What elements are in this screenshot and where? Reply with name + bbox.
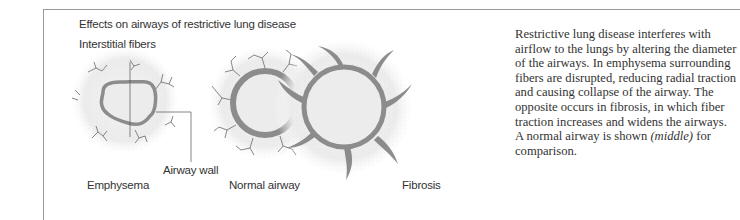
emphysema-diagram — [70, 45, 191, 162]
label-normal-airway: Normal airway — [229, 179, 300, 191]
label-emphysema: Emphysema — [87, 179, 149, 191]
fibrosis-diagram — [274, 40, 414, 180]
figure-title: Effects on airways of restrictive lung d… — [79, 18, 296, 30]
label-fibrosis: Fibrosis — [402, 179, 441, 191]
label-airway-wall: Airway wall — [163, 164, 218, 176]
caption-italic: (middle) — [650, 129, 693, 143]
frame-left-border — [43, 9, 44, 220]
dilated-airway-ring — [304, 67, 384, 147]
caption-text: Restrictive lung disease interferes with… — [515, 27, 736, 143]
frame-top-border — [43, 9, 740, 10]
figure-caption: Restrictive lung disease interferes with… — [515, 27, 737, 158]
airway-illustration — [60, 40, 480, 190]
